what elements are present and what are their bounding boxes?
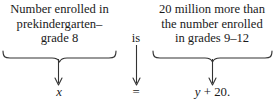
left-phrase-line-3: grade 8 xyxy=(0,31,119,46)
left-phrase-line-1: Number enrolled in xyxy=(0,2,119,17)
plus-operator: + xyxy=(204,85,211,99)
connector-word-is: is xyxy=(120,31,152,46)
right-phrase-line-2: the number enrolled xyxy=(150,17,274,32)
left-expression: x xyxy=(0,85,118,100)
middle-down-arrow-icon xyxy=(131,45,142,87)
left-down-arrow-icon xyxy=(53,59,64,87)
left-phrase-line-2: prekindergarten– xyxy=(0,17,119,32)
left-variable-x: x xyxy=(56,85,62,99)
right-phrase-line-3: in grades 9–12 xyxy=(150,31,274,46)
equals-sign: = xyxy=(120,85,152,100)
right-phrase-line-1: 20 million more than xyxy=(150,2,274,17)
verbal-model-diagram: Number enrolled in prekindergarten– grad… xyxy=(0,0,274,105)
right-phrase-block: 20 million more than the number enrolled… xyxy=(150,2,274,46)
left-phrase-block: Number enrolled in prekindergarten– grad… xyxy=(0,2,119,46)
right-expression: y + 20. xyxy=(152,85,273,100)
right-down-arrow-icon xyxy=(207,59,218,87)
constant-twenty: 20. xyxy=(214,85,230,99)
